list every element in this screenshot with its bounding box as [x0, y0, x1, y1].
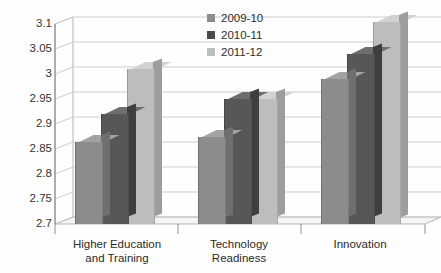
legend-swatch-icon: [207, 14, 215, 22]
chart-legend: 2009-10 2010-11 2011-12: [207, 10, 263, 61]
legend-item[interactable]: 2010-11: [207, 27, 263, 42]
y-tick-label: 2.9: [36, 118, 52, 130]
x-axis-category-line: and Training: [52, 252, 182, 266]
y-tick-label: 2.8: [36, 168, 52, 180]
bar-front-face: [75, 142, 103, 225]
x-axis-category-line: Higher Education: [52, 238, 182, 252]
bar-2009-10: [75, 135, 101, 225]
legend-swatch-icon: [207, 48, 215, 56]
bar-front-face: [198, 137, 226, 225]
legend-label: 2009-10: [221, 12, 263, 24]
x-axis-category-line: Technology: [180, 238, 298, 252]
bar-front-face: [321, 79, 349, 224]
y-tick-label: 2.95: [30, 93, 52, 105]
x-axis-category-label: Innovation: [300, 238, 420, 252]
legend-swatch-icon: [207, 31, 215, 39]
legend-label: 2010-11: [221, 29, 262, 41]
legend-label: 2011-12: [221, 46, 262, 58]
y-tick-label: 2.75: [30, 193, 52, 205]
bar-2009-10: [198, 130, 224, 225]
legend-item[interactable]: 2011-12: [207, 44, 263, 59]
x-axis-category-label: Higher Education and Training: [52, 238, 182, 265]
bar-2009-10: [321, 72, 347, 224]
y-tick-label: 3.05: [30, 43, 52, 55]
y-axis-tick-labels: 3.1 3.05 3 2.95 2.9 2.85 2.8 2.75 2.7: [0, 0, 52, 273]
y-tick-label: 2.7: [36, 218, 52, 230]
chart-canvas: 3.1 3.05 3 2.95 2.9 2.85 2.8 2.75 2.7 20…: [0, 0, 441, 273]
x-axis-category-label: Technology Readiness: [180, 238, 298, 265]
y-tick-label: 2.85: [30, 143, 52, 155]
x-axis-category-line: Innovation: [300, 238, 420, 252]
legend-item[interactable]: 2009-10: [207, 10, 263, 25]
y-tick-label: 3.1: [36, 18, 52, 30]
y-tick-label: 3: [46, 68, 52, 80]
x-axis-category-line: Readiness: [180, 252, 298, 266]
